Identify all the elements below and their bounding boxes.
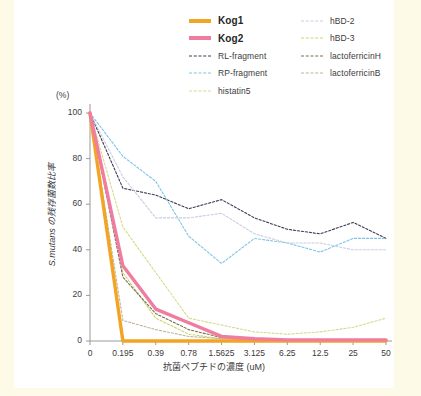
- legend-item-label: lactoferricinH: [330, 51, 381, 61]
- y-tick-label: 100: [34, 107, 82, 117]
- chart-area: (%) S.mutans の残存菌数比率 抗菌ペプチドの濃度 (uM) 0204…: [34, 90, 394, 380]
- page-root: Kog1Kog2RL-fragmentRP-fragmenthistatin5 …: [0, 0, 421, 396]
- y-tick-label: 0: [34, 335, 82, 345]
- legend-item-hbd-3[interactable]: hBD-3: [301, 30, 421, 48]
- legend-item-hbd-2[interactable]: hBD-2: [301, 12, 421, 30]
- x-axis-title: 抗菌ペプチドの濃度 (uM): [34, 360, 394, 373]
- legend-swatch-icon: [189, 16, 211, 25]
- legend-item-label: Kog1: [218, 15, 243, 26]
- legend-swatch-icon: [189, 69, 211, 78]
- legend-swatch-icon: [189, 51, 211, 60]
- chart-panel: Kog1Kog2RL-fragmentRP-fragmenthistatin5 …: [14, 0, 394, 388]
- legend-item-label: RL-fragment: [218, 51, 266, 61]
- legend-swatch-icon: [301, 16, 323, 25]
- legend-item-kog2[interactable]: Kog2: [189, 30, 301, 48]
- y-tick-label: 20: [34, 289, 82, 299]
- legend-column-left: Kog1Kog2RL-fragmentRP-fragmenthistatin5: [189, 12, 301, 100]
- plot-svg: [34, 90, 394, 360]
- legend-swatch-icon: [301, 34, 323, 43]
- series-line-hbd-2: [90, 113, 386, 250]
- series-line-rl-fragment: [90, 113, 386, 238]
- y-tick-label: 60: [34, 198, 82, 208]
- legend-item-kog1[interactable]: Kog1: [189, 12, 301, 30]
- legend-column-right: hBD-2hBD-3lactoferricinHlactoferricinB: [301, 12, 421, 82]
- series-line-rp-fragment: [90, 113, 386, 263]
- legend-item-label: RP-fragment: [218, 68, 267, 78]
- legend-item-label: lactoferricinB: [330, 68, 381, 78]
- legend-item-label: hBD-2: [330, 16, 355, 26]
- legend-item-label: Kog2: [218, 33, 243, 44]
- legend-item-lactoferricinh[interactable]: lactoferricinH: [301, 47, 421, 65]
- legend-item-lactoferricinb[interactable]: lactoferricinB: [301, 65, 421, 83]
- legend-item-label: hBD-3: [330, 33, 355, 43]
- legend-item-rp-fragment[interactable]: RP-fragment: [189, 65, 301, 83]
- legend-swatch-icon: [301, 69, 323, 78]
- x-tick-label: 50: [364, 348, 408, 358]
- y-tick-label: 40: [34, 244, 82, 254]
- y-tick-label: 80: [34, 153, 82, 163]
- legend-swatch-icon: [189, 34, 211, 43]
- legend-swatch-icon: [301, 51, 323, 60]
- legend-item-rl-fragment[interactable]: RL-fragment: [189, 47, 301, 65]
